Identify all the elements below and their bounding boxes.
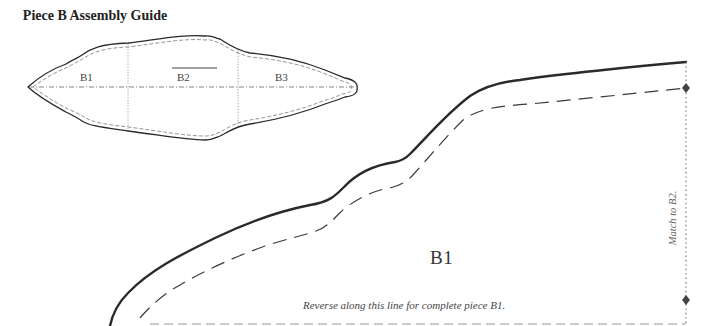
match-note: Match to B2. <box>667 168 678 268</box>
assembly-guide-shape <box>28 36 357 140</box>
cut-line <box>110 62 686 326</box>
notch-marker-bottom-icon <box>682 295 690 305</box>
seam-line <box>140 88 686 318</box>
piece-label: B1 <box>430 247 453 269</box>
guide-title: Piece B Assembly Guide <box>0 8 190 24</box>
pattern-piece-b1 <box>110 62 690 326</box>
fold-note: Reverse along this line for complete pie… <box>303 299 505 311</box>
pattern-sheet: Piece B Assembly Guide B1 B2 B3 B1 Rever… <box>0 0 703 326</box>
guide-label-b3: B3 <box>275 71 288 83</box>
pattern-drawing <box>0 0 703 326</box>
notch-marker-top-icon <box>682 83 690 93</box>
guide-cut-outline <box>28 36 357 140</box>
guide-seam-outline <box>33 40 351 136</box>
guide-label-b2: B2 <box>177 71 190 83</box>
guide-label-b1: B1 <box>80 71 93 83</box>
